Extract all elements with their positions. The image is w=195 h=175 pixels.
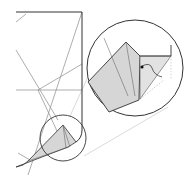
paper-edges bbox=[16, 12, 82, 142]
magnifier-large bbox=[87, 20, 183, 116]
paper-sheet bbox=[16, 12, 82, 175]
origami-diagram bbox=[0, 0, 195, 175]
